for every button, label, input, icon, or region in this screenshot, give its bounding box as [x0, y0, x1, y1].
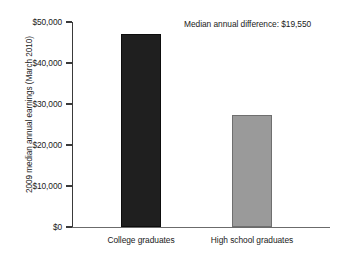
- y-axis-tick: [66, 185, 72, 186]
- bar-high-school-graduates: [232, 115, 272, 227]
- y-axis-tick-label: $10,000: [32, 181, 62, 191]
- y-axis-tick-label: $50,000: [32, 17, 62, 27]
- y-axis-tick: [66, 21, 72, 22]
- y-axis-tick-label: $0: [53, 222, 62, 232]
- bar-college-graduates: [121, 34, 161, 227]
- bar-chart: 2009 median annual earnings (March 2010)…: [0, 0, 341, 257]
- y-axis-tick: [66, 103, 72, 104]
- median-difference-annotation: Median annual difference: $19,550: [184, 19, 311, 29]
- y-axis-tick: [66, 144, 72, 145]
- y-axis-tick-label: $40,000: [32, 58, 62, 68]
- x-axis-label-college-graduates: College graduates: [81, 235, 201, 245]
- x-axis-line: [72, 227, 330, 228]
- y-axis-tick-label: $30,000: [32, 99, 62, 109]
- y-axis-tick: [66, 62, 72, 63]
- y-axis-tick: [66, 226, 72, 227]
- x-axis-label-high-school-graduates: High school graduates: [192, 235, 312, 245]
- y-axis-tick-label: $20,000: [32, 140, 62, 150]
- y-axis-line: [72, 22, 73, 228]
